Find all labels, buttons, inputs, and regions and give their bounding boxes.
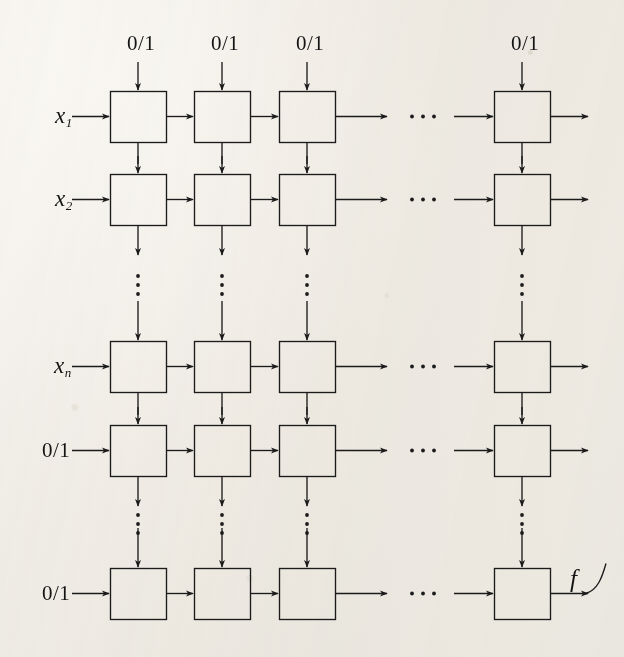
horizontal-ellipsis-r5: [410, 592, 436, 596]
horizontal-ellipsis-r1: [410, 115, 436, 119]
cell-box-r3-c1: [111, 342, 167, 393]
row-label-0-1-row4: 0/1: [42, 440, 70, 461]
top-label-0-1-col2: 0/1: [211, 33, 239, 54]
row-label-x2-base: x: [55, 186, 65, 211]
cell-box-r4-c4: [495, 426, 551, 477]
cell-box-r3-c2: [195, 342, 251, 393]
cell-box-r1-c3: [280, 92, 336, 143]
cell-box-r3-c3: [280, 342, 336, 393]
cell-box-r5-c3: [280, 569, 336, 620]
output-f-connector: [586, 564, 606, 594]
row-label-xn: xn: [54, 354, 71, 379]
cell-box-r3-c4: [495, 342, 551, 393]
row-label-0-1-row5: 0/1: [42, 583, 70, 604]
cell-box-r5-c4: [495, 569, 551, 620]
cell-box-r4-c3: [280, 426, 336, 477]
cell-box-r2-c4: [495, 175, 551, 226]
row-label-xn-base: x: [54, 353, 64, 378]
top-label-0-1-col4: 0/1: [511, 33, 539, 54]
figure-canvas: 0/1 0/1 0/1 0/1 x1 x2 xn 0/1 0/1 f: [0, 0, 624, 657]
row-label-x1: x1: [55, 104, 72, 129]
horizontal-ellipsis-r2: [410, 198, 436, 202]
vertical-ellipsis-c2-after-r2: [220, 274, 224, 296]
cell-box-r1-c1: [111, 92, 167, 143]
cell-box-r1-c2: [195, 92, 251, 143]
row-label-x1-sub: 1: [66, 115, 73, 130]
cell-box-r2-c3: [280, 175, 336, 226]
vertical-ellipsis-c4-after-r2: [520, 274, 524, 296]
cell-box-r5-c2: [195, 569, 251, 620]
row-label-xn-sub: n: [65, 365, 72, 380]
horizontal-ellipsis-r4: [410, 449, 436, 453]
cell-box-r2-c2: [195, 175, 251, 226]
vertical-ellipsis-c3-after-r2: [305, 274, 309, 296]
row-label-x2: x2: [55, 187, 72, 212]
row-label-x1-base: x: [55, 103, 65, 128]
cell-box-r4-c1: [111, 426, 167, 477]
diagram-vector-layer: [0, 0, 624, 657]
vertical-ellipsis-c1-after-r2: [136, 274, 140, 296]
top-label-0-1-col1: 0/1: [127, 33, 155, 54]
cell-box-r2-c1: [111, 175, 167, 226]
cell-box-r1-c4: [495, 92, 551, 143]
row-label-x2-sub: 2: [66, 198, 73, 213]
horizontal-ellipsis-r3: [410, 365, 436, 369]
cell-box-r4-c2: [195, 426, 251, 477]
top-label-0-1-col3: 0/1: [296, 33, 324, 54]
output-label-f: f: [570, 566, 577, 591]
cell-box-r5-c1: [111, 569, 167, 620]
